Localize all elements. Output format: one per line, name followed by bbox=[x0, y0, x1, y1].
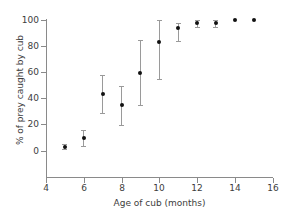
data-point bbox=[233, 18, 237, 22]
x-axis-title: Age of cub (months) bbox=[46, 198, 273, 208]
x-tick-label: 8 bbox=[112, 184, 132, 193]
error-bar-cap bbox=[81, 146, 86, 147]
error-bar-cap bbox=[138, 105, 143, 106]
x-tick-label: 6 bbox=[74, 184, 94, 193]
error-bar-cap bbox=[81, 130, 86, 131]
y-tick-mark bbox=[41, 98, 46, 99]
error-bar-cap bbox=[213, 20, 218, 21]
error-bar-cap bbox=[195, 20, 200, 21]
y-tick-mark bbox=[41, 46, 46, 47]
error-bar-cap bbox=[119, 125, 124, 126]
error-bar-cap bbox=[195, 27, 200, 28]
error-bar bbox=[159, 20, 160, 79]
error-bar-cap bbox=[138, 40, 143, 41]
data-point bbox=[195, 21, 199, 25]
x-tick-label: 4 bbox=[36, 184, 56, 193]
data-point bbox=[82, 136, 86, 140]
data-point bbox=[176, 26, 180, 30]
x-tick-label: 14 bbox=[225, 184, 245, 193]
error-bar-cap bbox=[100, 113, 105, 114]
y-axis-line bbox=[46, 19, 47, 177]
y-tick-mark bbox=[41, 151, 46, 152]
error-bar-cap bbox=[119, 86, 124, 87]
error-bar-cap bbox=[157, 79, 162, 80]
chart-figure: 020406080100 46810121416 Age of cub (mon… bbox=[0, 0, 284, 220]
data-point bbox=[157, 40, 161, 44]
data-point bbox=[214, 21, 218, 25]
data-point bbox=[138, 71, 142, 75]
error-bar-cap bbox=[100, 75, 105, 76]
y-tick-mark bbox=[41, 72, 46, 73]
x-tick-label: 16 bbox=[263, 184, 283, 193]
data-point bbox=[101, 92, 105, 96]
error-bar-cap bbox=[213, 27, 218, 28]
error-bar-cap bbox=[62, 149, 67, 150]
error-bar-cap bbox=[157, 20, 162, 21]
error-bar-cap bbox=[176, 23, 181, 24]
data-point bbox=[120, 103, 124, 107]
error-bar-cap bbox=[176, 41, 181, 42]
data-point bbox=[63, 145, 67, 149]
y-tick-mark bbox=[41, 124, 46, 125]
x-tick-label: 10 bbox=[149, 184, 169, 193]
x-tick-label: 12 bbox=[187, 184, 207, 193]
y-tick-mark bbox=[41, 20, 46, 21]
y-axis-title: % of prey caught by cub bbox=[15, 10, 25, 170]
data-point bbox=[252, 18, 256, 22]
